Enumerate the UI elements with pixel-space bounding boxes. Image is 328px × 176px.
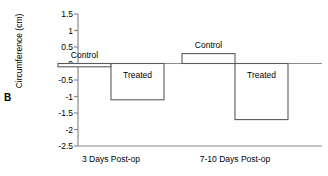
bar-label: Treated xyxy=(123,70,152,80)
x-axis-tick-label: 3 Days Post-op xyxy=(82,154,140,164)
x-axis-tick-label: 7-10 Days Post-op xyxy=(200,154,270,164)
bar-label: Treated xyxy=(247,70,276,80)
bar xyxy=(182,54,235,64)
bar-label: Control xyxy=(195,40,222,50)
bar-label: Control xyxy=(71,50,98,60)
plot-area xyxy=(0,0,328,176)
bar xyxy=(58,64,111,67)
figure-panel-b: B Circumference (cm) 1.510.50-0.5-1-1.5-… xyxy=(0,0,328,176)
